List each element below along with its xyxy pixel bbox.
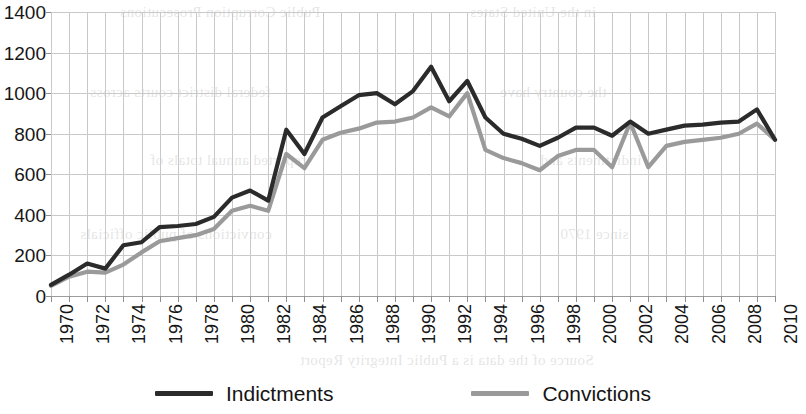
y-axis: 0200400600800100012001400 <box>0 12 46 296</box>
y-tick-label: 1000 <box>2 84 46 103</box>
plot-area <box>51 12 775 296</box>
x-tick-mark <box>69 296 70 302</box>
x-tick-mark <box>323 296 324 302</box>
x-tick-mark <box>757 296 758 302</box>
x-tick-mark <box>142 296 143 302</box>
x-tick-label: 1976 <box>167 304 185 344</box>
y-tick-label: 1200 <box>2 44 46 63</box>
x-tick-mark <box>395 296 396 302</box>
legend-line-swatch <box>471 391 529 396</box>
x-tick-mark <box>558 296 559 302</box>
x-tick-mark <box>504 296 505 302</box>
line-chart: 0200400600800100012001400 19701972197419… <box>0 0 806 414</box>
x-tick-label: 1994 <box>492 304 510 344</box>
x-tick-mark <box>178 296 179 302</box>
x-tick-label: 1998 <box>565 304 583 344</box>
legend-line-swatch <box>155 391 213 396</box>
x-tick-mark <box>431 296 432 302</box>
x-axis: 1970197219741976197819801982198419861988… <box>51 296 775 358</box>
x-tick-label: 2004 <box>673 304 691 344</box>
x-tick-mark <box>775 296 776 302</box>
series-line-convictions <box>51 93 775 286</box>
x-tick-label: 1982 <box>275 304 293 344</box>
x-tick-mark <box>739 296 740 302</box>
x-tick-mark <box>413 296 414 302</box>
gridline-x-2010 <box>775 12 776 296</box>
x-tick-mark <box>359 296 360 302</box>
x-tick-label: 1972 <box>94 304 112 344</box>
chart-legend: IndictmentsConvictions <box>0 372 806 414</box>
x-tick-label: 1988 <box>384 304 402 344</box>
x-tick-mark <box>467 296 468 302</box>
x-tick-label: 2006 <box>710 304 728 344</box>
x-tick-mark <box>51 296 52 302</box>
x-tick-mark <box>160 296 161 302</box>
y-tick-label: 200 <box>2 246 46 265</box>
legend-item-indictments[interactable]: Indictments <box>155 383 333 404</box>
x-tick-mark <box>522 296 523 302</box>
x-tick-label: 2000 <box>601 304 619 344</box>
x-tick-mark <box>304 296 305 302</box>
legend-item-convictions[interactable]: Convictions <box>471 383 651 404</box>
series-line-indictments <box>51 67 775 285</box>
x-tick-label: 1980 <box>239 304 257 344</box>
y-tick-label: 1400 <box>2 3 46 22</box>
x-tick-label: 2010 <box>782 304 800 344</box>
x-tick-label: 1992 <box>456 304 474 344</box>
x-tick-mark <box>721 296 722 302</box>
x-tick-mark <box>630 296 631 302</box>
x-tick-mark <box>666 296 667 302</box>
legend-label: Convictions <box>542 383 651 404</box>
x-tick-mark <box>576 296 577 302</box>
legend-label: Indictments <box>226 383 333 404</box>
x-tick-mark <box>594 296 595 302</box>
y-tick-label: 0 <box>2 287 46 306</box>
x-tick-label: 1990 <box>420 304 438 344</box>
x-tick-mark <box>87 296 88 302</box>
x-tick-mark <box>377 296 378 302</box>
y-tick-label: 400 <box>2 206 46 225</box>
x-tick-mark <box>449 296 450 302</box>
x-tick-mark <box>232 296 233 302</box>
x-tick-label: 1984 <box>311 304 329 344</box>
x-tick-label: 1974 <box>130 304 148 344</box>
x-tick-mark <box>286 296 287 302</box>
x-tick-label: 1996 <box>529 304 547 344</box>
x-tick-mark <box>196 296 197 302</box>
x-tick-label: 1978 <box>203 304 221 344</box>
series-lines <box>51 12 775 296</box>
x-tick-label: 2008 <box>746 304 764 344</box>
x-tick-mark <box>540 296 541 302</box>
x-tick-mark <box>612 296 613 302</box>
x-tick-label: 1986 <box>348 304 366 344</box>
x-tick-mark <box>703 296 704 302</box>
x-tick-mark <box>268 296 269 302</box>
x-tick-mark <box>123 296 124 302</box>
x-tick-label: 2002 <box>637 304 655 344</box>
x-tick-mark <box>648 296 649 302</box>
x-tick-mark <box>214 296 215 302</box>
x-tick-mark <box>685 296 686 302</box>
x-tick-mark <box>250 296 251 302</box>
x-tick-label: 1970 <box>58 304 76 344</box>
y-tick-label: 800 <box>2 125 46 144</box>
x-tick-mark <box>105 296 106 302</box>
x-tick-mark <box>485 296 486 302</box>
y-tick-label: 600 <box>2 165 46 184</box>
x-tick-mark <box>341 296 342 302</box>
